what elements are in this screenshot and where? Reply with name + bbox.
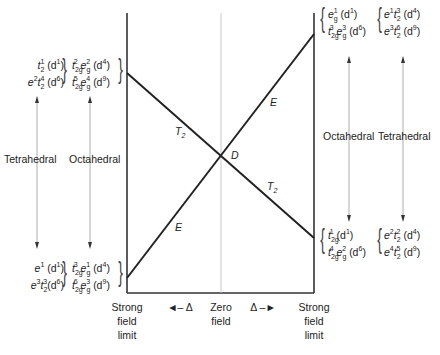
brace: { (320, 225, 325, 253)
left-lower-tetrahedral-configs: e1 (d1) e3t23(d6) (14, 256, 64, 290)
left-lower-octahedral-configs: t2g3 eg1 (d4) t2g6 eg3 (d9) (72, 256, 110, 290)
zero-field-label: Zerofield (203, 300, 239, 328)
brace: { (320, 4, 325, 32)
right-tetrahedral-label: Tetrahedral (378, 131, 431, 142)
config-e2t24-d6: e2t24 (d6) (14, 70, 64, 87)
left-delta-arrow-label: ◄– Δ (160, 300, 200, 314)
right-delta-arrow-label: Δ –► (243, 300, 283, 314)
left-upper-tetrahedral-configs: t21 (d1) e2t24 (d6) (14, 53, 64, 87)
right-lower-tetrahedral-configs: e2t22 (d4) e4t25 (d9) (384, 223, 420, 257)
left-tetrahedral-label: Tetrahedral (4, 154, 57, 165)
brace: } (62, 258, 67, 286)
brace: { (377, 225, 382, 253)
right-lower-octahedral-configs: t2g1 (d1) t2g4 eg2 (d6) (328, 223, 366, 257)
right-octahedral-label: Octahedral (323, 131, 374, 142)
brace: } (118, 258, 123, 286)
left-upper-octahedral-configs: t2g2 eg2 (d4) t2g5 eg4 (d9) (72, 53, 110, 87)
intersection-label-d: D (231, 150, 239, 161)
left-strong-field-label: Strongfieldlimit (104, 300, 150, 342)
t2-lower-label: T2 (267, 181, 277, 194)
brace: } (62, 55, 67, 83)
e-lower-label: E (175, 222, 182, 233)
e-upper-label: E (270, 97, 277, 108)
right-strong-field-label: Strongfieldlimit (291, 300, 337, 342)
right-upper-octahedral-configs: eg1 (d1) t2g3 eg3 (d6) (328, 2, 366, 36)
config-t2-d1: t21 (d1) (14, 53, 64, 70)
left-octahedral-label: Octahedral (69, 154, 120, 165)
e-line (127, 34, 314, 278)
right-upper-tetrahedral-configs: e1t23 (d4) e3t26 (d9) (384, 2, 420, 36)
brace: { (377, 4, 382, 32)
t2-upper-label: T2 (175, 126, 185, 139)
brace: } (118, 55, 123, 83)
